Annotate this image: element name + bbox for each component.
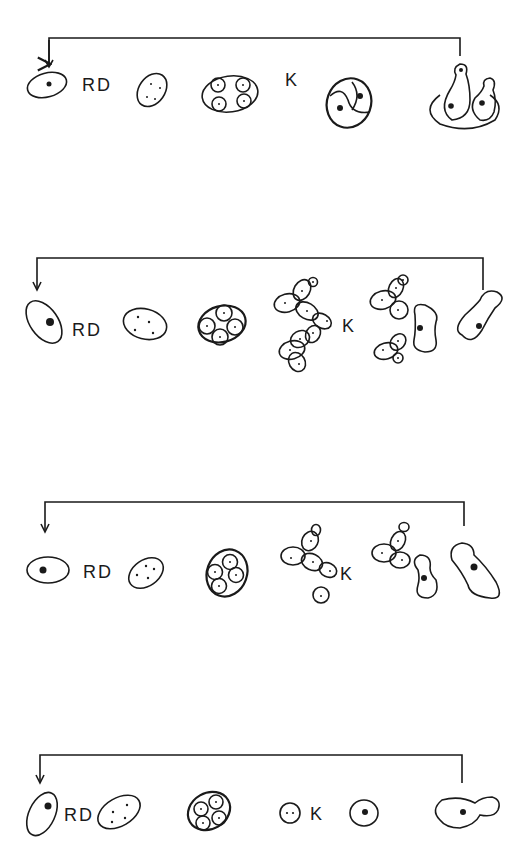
vegetative-cell bbox=[19, 294, 69, 349]
label-k: K bbox=[285, 70, 299, 90]
spore-chains bbox=[272, 276, 334, 374]
cycle-row-4: RD K bbox=[20, 755, 499, 840]
label-rd: RD bbox=[72, 320, 102, 340]
return-arrow bbox=[49, 38, 460, 64]
label-rd: RD bbox=[64, 805, 94, 825]
life-cycle-diagram: RD K RD bbox=[0, 0, 520, 863]
label-k: K bbox=[342, 316, 356, 336]
meiotic-cell bbox=[92, 788, 146, 835]
vegetative-cell bbox=[20, 788, 63, 841]
budding-cell bbox=[458, 291, 502, 339]
conjugation bbox=[368, 275, 437, 363]
cycle-row-1: RD K bbox=[25, 38, 499, 134]
label-k: K bbox=[340, 564, 354, 584]
budding-cell bbox=[451, 543, 499, 598]
ascus bbox=[200, 72, 260, 115]
label-rd: RD bbox=[82, 75, 112, 95]
label-k: K bbox=[310, 804, 324, 824]
ascus bbox=[194, 300, 250, 347]
meiotic-cell bbox=[123, 551, 169, 594]
cycle-row-3: RD K bbox=[27, 502, 499, 603]
cycle-row-2: RD K bbox=[19, 258, 502, 375]
meiotic-cell bbox=[120, 304, 170, 344]
spore bbox=[280, 803, 300, 823]
ascus bbox=[181, 784, 237, 837]
spore-chains bbox=[281, 525, 339, 604]
vegetative-cell bbox=[27, 557, 69, 583]
label-rd: RD bbox=[83, 562, 113, 582]
budding-cell bbox=[435, 797, 499, 828]
budding-cells bbox=[430, 95, 499, 129]
conjugation bbox=[372, 523, 437, 599]
meiotic-cell bbox=[131, 68, 173, 112]
